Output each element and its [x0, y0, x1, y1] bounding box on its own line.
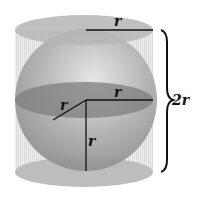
sphere-in-cylinder-diagram: r r r r 2r [0, 0, 198, 203]
height-label: 2r [171, 92, 191, 108]
